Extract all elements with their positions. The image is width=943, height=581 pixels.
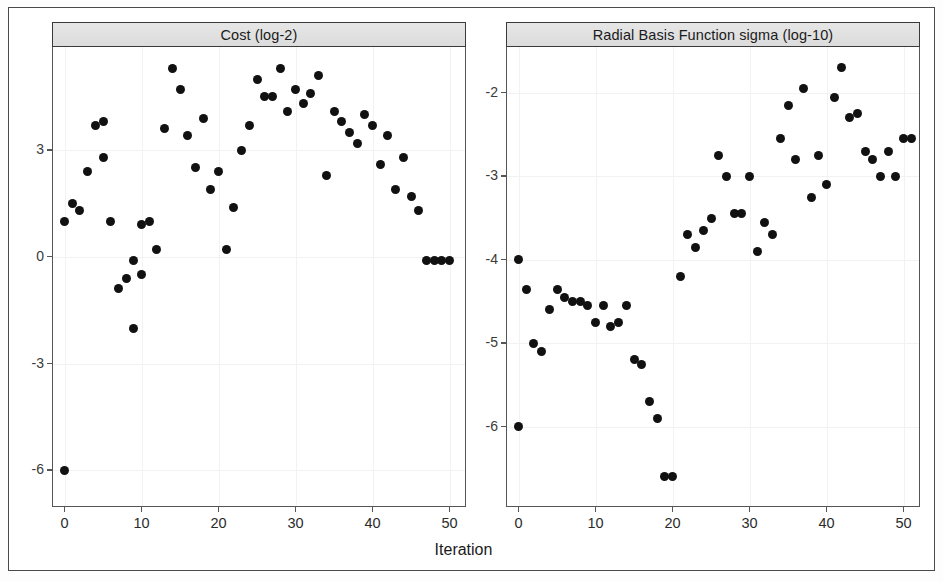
scatter-point xyxy=(653,414,662,423)
gridline-horizontal xyxy=(507,427,919,428)
scatter-point xyxy=(183,131,192,140)
y-tick-mark xyxy=(47,469,53,470)
x-tick-label: 0 xyxy=(515,515,523,531)
scatter-point xyxy=(907,134,916,143)
scatter-point xyxy=(583,301,592,310)
scatter-point xyxy=(214,167,223,176)
scatter-point xyxy=(414,206,423,215)
x-tick-mark xyxy=(518,506,519,512)
x-tick-label: 50 xyxy=(896,515,912,531)
scatter-point xyxy=(253,75,262,84)
scatter-point xyxy=(314,71,323,80)
scatter-point xyxy=(807,193,816,202)
scatter-point xyxy=(245,121,254,130)
scatter-point xyxy=(122,274,131,283)
scatter-point xyxy=(383,131,392,140)
x-tick-label: 40 xyxy=(819,515,835,531)
gridline-vertical xyxy=(827,47,828,506)
panel-cost: Cost (log-2) 30-3-601020304050 xyxy=(52,22,466,507)
scatter-point xyxy=(876,172,885,181)
scatter-point xyxy=(268,92,277,101)
scatter-point xyxy=(291,85,300,94)
scatter-point xyxy=(237,146,246,155)
scatter-point xyxy=(799,84,808,93)
scatter-point xyxy=(768,230,777,239)
scatter-point xyxy=(276,64,285,73)
x-tick-label: 20 xyxy=(210,515,226,531)
x-tick-label: 0 xyxy=(61,515,69,531)
scatter-point xyxy=(668,472,677,481)
scatter-point xyxy=(345,128,354,137)
scatter-point xyxy=(129,256,138,265)
gridline-vertical xyxy=(219,47,220,506)
scatter-point xyxy=(637,360,646,369)
x-tick-label: 20 xyxy=(664,515,680,531)
scatter-point xyxy=(676,272,685,281)
x-tick-mark xyxy=(595,506,596,512)
x-tick-mark xyxy=(672,506,673,512)
scatter-point xyxy=(830,93,839,102)
plot-area-sigma: -2-3-4-5-601020304050 xyxy=(506,47,920,507)
x-tick-mark xyxy=(218,506,219,512)
gridline-vertical xyxy=(373,47,374,506)
x-tick-mark xyxy=(295,506,296,512)
scatter-point xyxy=(814,151,823,160)
scatter-point xyxy=(353,139,362,148)
scatter-point xyxy=(699,226,708,235)
scatter-point xyxy=(145,217,154,226)
scatter-point xyxy=(137,270,146,279)
x-tick-mark xyxy=(372,506,373,512)
x-tick-mark xyxy=(826,506,827,512)
scatter-point xyxy=(868,155,877,164)
scatter-point xyxy=(722,172,731,181)
panel-title-cost: Cost (log-2) xyxy=(221,27,298,43)
scatter-point xyxy=(599,301,608,310)
y-tick-mark xyxy=(501,426,507,427)
x-tick-label: 40 xyxy=(365,515,381,531)
y-tick-label: -4 xyxy=(486,251,498,267)
gridline-horizontal xyxy=(507,260,919,261)
scatter-point xyxy=(853,109,862,118)
panel-title-sigma: Radial Basis Function sigma (log-10) xyxy=(593,27,834,43)
x-tick-label: 30 xyxy=(742,515,758,531)
gridline-vertical xyxy=(596,47,597,506)
scatter-point xyxy=(391,185,400,194)
scatter-point xyxy=(745,172,754,181)
y-tick-label: 0 xyxy=(36,248,44,264)
scatter-point xyxy=(199,114,208,123)
y-tick-mark xyxy=(47,363,53,364)
y-tick-mark xyxy=(501,342,507,343)
scatter-point xyxy=(591,318,600,327)
scatter-point xyxy=(222,245,231,254)
x-axis-label-text: Iteration xyxy=(435,541,493,559)
scatter-point xyxy=(707,214,716,223)
gridline-horizontal xyxy=(507,93,919,94)
y-tick-mark xyxy=(47,149,53,150)
x-tick-mark xyxy=(64,506,65,512)
y-tick-label: -3 xyxy=(32,355,44,371)
x-tick-mark xyxy=(749,506,750,512)
scatter-point xyxy=(99,153,108,162)
gridline-horizontal xyxy=(53,257,465,258)
panel-strip-sigma: Radial Basis Function sigma (log-10) xyxy=(506,22,920,47)
y-tick-mark xyxy=(501,259,507,260)
scatter-point xyxy=(691,243,700,252)
gridline-vertical xyxy=(65,47,66,506)
gridline-vertical xyxy=(904,47,905,506)
scatter-point xyxy=(60,217,69,226)
scatter-point xyxy=(791,155,800,164)
scatter-point xyxy=(229,203,238,212)
x-tick-mark xyxy=(903,506,904,512)
panel-sigma: Radial Basis Function sigma (log-10) -2-… xyxy=(506,22,920,507)
panel-strip-cost: Cost (log-2) xyxy=(52,22,466,47)
x-tick-mark xyxy=(449,506,450,512)
scatter-point xyxy=(514,255,523,264)
y-tick-label: -2 xyxy=(486,84,498,100)
scatter-point xyxy=(152,245,161,254)
scatter-point xyxy=(529,339,538,348)
scatter-point xyxy=(360,110,369,119)
y-tick-label: -6 xyxy=(32,461,44,477)
gridline-vertical xyxy=(750,47,751,506)
y-tick-label: 3 xyxy=(36,141,44,157)
y-tick-mark xyxy=(501,175,507,176)
